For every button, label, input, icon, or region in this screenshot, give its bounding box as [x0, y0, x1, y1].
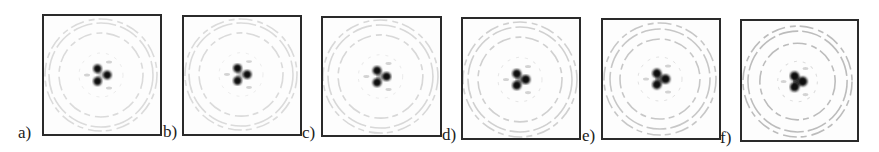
panel-label: f) — [720, 129, 731, 146]
diffraction-spot — [790, 71, 799, 80]
satellite-spot — [802, 93, 808, 96]
diffraction-pattern-panel-c — [321, 16, 442, 137]
diffraction-spot — [382, 72, 391, 81]
satellite-spot — [363, 75, 369, 78]
satellite-spot — [525, 65, 531, 68]
satellite-spot — [106, 87, 112, 90]
diffraction-spot — [790, 82, 799, 91]
diffraction-pattern-image — [463, 19, 579, 138]
satellite-spot — [246, 60, 252, 63]
panel-label: a) — [18, 124, 31, 141]
diffraction-pattern-image — [742, 21, 857, 140]
satellite-spot — [643, 78, 649, 81]
satellite-spot — [84, 74, 90, 77]
panel-label: d) — [442, 126, 456, 143]
diffraction-pattern-image — [184, 17, 300, 134]
diffraction-spot — [373, 78, 382, 87]
satellite-spot — [386, 62, 392, 65]
panel-label: e) — [582, 127, 595, 144]
diffraction-spot — [652, 80, 661, 89]
diffraction-spot — [233, 77, 241, 85]
diffraction-spot — [373, 66, 382, 75]
diffraction-spot — [243, 70, 251, 78]
diffraction-spot — [798, 77, 807, 86]
diffraction-pattern-panel-b — [182, 15, 302, 136]
panel-label: b) — [163, 123, 177, 140]
diffraction-pattern-image — [44, 16, 160, 134]
satellite-spot — [781, 80, 787, 83]
diffraction-spot — [521, 75, 530, 84]
satellite-spot — [246, 86, 252, 89]
satellite-spot — [106, 61, 112, 64]
diffraction-pattern-image — [323, 18, 440, 135]
diffraction-pattern-panel-a — [42, 14, 162, 136]
satellite-spot — [802, 67, 808, 70]
diffraction-pattern-panel-f — [740, 19, 859, 142]
diffraction-spot — [103, 71, 111, 79]
satellite-spot — [665, 65, 671, 68]
diffraction-spot — [512, 69, 521, 78]
diffraction-spot — [233, 64, 241, 72]
satellite-spot — [386, 88, 392, 91]
satellite-spot — [503, 78, 509, 81]
panel-label: c) — [302, 124, 315, 141]
diffraction-pattern-image — [603, 20, 719, 138]
satellite-spot — [224, 73, 230, 76]
diffraction-pattern-panel-e — [601, 18, 721, 140]
satellite-spot — [665, 91, 671, 94]
diffraction-pattern-panel-d — [461, 17, 581, 140]
diffraction-spot — [93, 77, 101, 85]
diffraction-spot — [661, 75, 670, 84]
diffraction-spot — [512, 81, 521, 90]
diffraction-spot — [652, 69, 661, 78]
diffraction-spot — [93, 65, 101, 73]
satellite-spot — [525, 91, 531, 94]
